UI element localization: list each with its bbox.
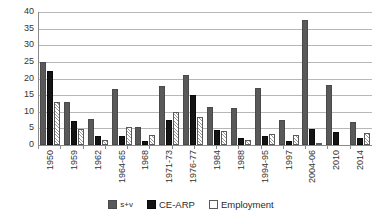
x-tick-slot	[238, 145, 260, 149]
bar-ce-arp-2010	[333, 132, 339, 145]
y-tick-label: 35	[4, 24, 34, 33]
chart-legend: s+vCE-ARPEmployment	[0, 199, 382, 210]
x-tick-label-1964-65: 1964-65	[117, 150, 126, 183]
x-tick-mark	[350, 145, 351, 149]
x-tick-label-1984: 1984	[212, 150, 221, 170]
x-tick-slot	[305, 145, 327, 149]
bar-employment-2014	[364, 133, 370, 145]
x-tick-label-2010: 2010	[332, 150, 341, 170]
bar-employment-1959	[78, 129, 84, 145]
x-label-slot: 1988	[229, 150, 253, 194]
x-label-slot: 2010	[324, 150, 348, 194]
bar-employment-1968	[149, 135, 155, 145]
bar-ce-arp-1971-73	[166, 120, 172, 145]
x-label-slot: 1968	[133, 150, 157, 194]
bar-employment-1950	[54, 102, 60, 145]
x-axis-tick-marks	[38, 145, 372, 149]
bar-group-1950	[38, 12, 62, 145]
x-label-slot: 2004-06	[300, 150, 324, 194]
x-tick-slot	[60, 145, 82, 149]
x-label-slot: 1971-73	[157, 150, 181, 194]
bar-s-v-2004-06	[302, 20, 308, 145]
bar-ce-arp-1976-77	[190, 95, 196, 145]
x-label-slot: 1964-65	[110, 150, 134, 194]
x-tick-slot	[149, 145, 171, 149]
bar-group-1962	[86, 12, 110, 145]
x-label-slot: 2014	[348, 150, 372, 194]
bar-s-v-2010	[326, 85, 332, 145]
bar-group-1997	[277, 12, 301, 145]
bar-ce-arp-1988	[238, 138, 244, 145]
x-tick-label-1959: 1959	[69, 150, 78, 170]
bar-ce-arp-1994-95	[262, 136, 268, 145]
y-tick-label: 25	[4, 57, 34, 66]
bar-ce-arp-2014	[357, 138, 363, 145]
bar-group-1971-73	[157, 12, 181, 145]
x-tick-mark	[105, 145, 106, 149]
x-tick-mark	[216, 145, 217, 149]
x-tick-slot	[261, 145, 283, 149]
x-tick-label-1976-77: 1976-77	[189, 150, 198, 183]
bar-s-v-1997	[279, 120, 285, 145]
bar-s-v-1984	[207, 107, 213, 145]
y-axis-line	[38, 12, 39, 146]
bar-employment-1984	[221, 131, 227, 145]
x-tick-slot	[216, 145, 238, 149]
bar-s-v-1971-73	[159, 86, 165, 145]
legend-item-ce-arp[interactable]: CE-ARP	[147, 199, 195, 210]
y-tick-label: 0	[4, 140, 34, 149]
x-tick-mark	[238, 145, 239, 149]
bar-s-v-1962	[88, 119, 94, 145]
bar-group-1994-95	[253, 12, 277, 145]
legend-swatch-icon	[147, 200, 156, 209]
bar-group-1988	[229, 12, 253, 145]
bar-s-v-1959	[64, 102, 70, 145]
bar-chart: 0510152025303540 1950195919621964-651968…	[0, 0, 382, 223]
legend-item-s-v[interactable]: s+v	[108, 200, 133, 209]
bar-ce-arp-2004-06	[309, 129, 315, 145]
bar-s-v-1988	[231, 108, 237, 145]
x-label-slot: 1962	[86, 150, 110, 194]
x-tick-label-2004-06: 2004-06	[308, 150, 317, 183]
legend-item-employment[interactable]: Employment	[209, 199, 274, 210]
bar-s-v-1950	[40, 62, 46, 145]
bars-layer	[38, 12, 372, 145]
x-label-slot: 1994-95	[253, 150, 277, 194]
bar-ce-arp-1984	[214, 130, 220, 145]
y-tick-label: 10	[4, 107, 34, 116]
x-tick-label-1997: 1997	[284, 150, 293, 170]
x-tick-mark	[83, 145, 84, 149]
x-tick-slot	[172, 145, 194, 149]
x-tick-mark	[261, 145, 262, 149]
x-axis-tick-labels: 1950195919621964-6519681971-731976-77198…	[38, 150, 372, 194]
x-tick-mark	[194, 145, 195, 149]
bar-employment-1976-77	[197, 117, 203, 145]
bar-employment-1964-65	[126, 127, 132, 145]
y-tick-label: 15	[4, 90, 34, 99]
x-tick-label-1988: 1988	[236, 150, 245, 170]
x-tick-slot	[127, 145, 149, 149]
x-tick-slot	[350, 145, 372, 149]
x-tick-slot	[283, 145, 305, 149]
x-tick-mark	[327, 145, 328, 149]
bar-group-1959	[62, 12, 86, 145]
x-tick-mark	[283, 145, 284, 149]
bar-group-2010	[324, 12, 348, 145]
x-tick-label-1968: 1968	[141, 150, 150, 170]
x-tick-mark	[127, 145, 128, 149]
x-label-slot: 1984	[205, 150, 229, 194]
bar-s-v-1968	[135, 127, 141, 145]
bar-group-2004-06	[300, 12, 324, 145]
x-label-slot: 1959	[62, 150, 86, 194]
legend-swatch-icon	[108, 200, 117, 209]
x-tick-mark	[172, 145, 173, 149]
bar-s-v-1994-95	[255, 88, 261, 145]
bar-employment-1997	[293, 135, 299, 145]
y-tick-label: 40	[4, 7, 34, 16]
bar-group-1968	[133, 12, 157, 145]
x-tick-label-2014: 2014	[356, 150, 365, 170]
bar-ce-arp-1962	[95, 136, 101, 145]
x-tick-label-1950: 1950	[45, 150, 54, 170]
bar-group-1976-77	[181, 12, 205, 145]
bar-ce-arp-1964-65	[119, 136, 125, 145]
